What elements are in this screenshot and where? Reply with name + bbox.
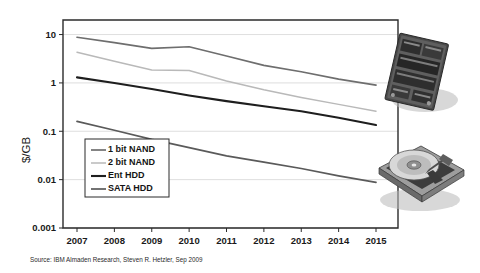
hdd-photo bbox=[379, 146, 464, 211]
y-axis-ticks: 1010.10.010.001 bbox=[32, 29, 63, 233]
x-tick-label: 2014 bbox=[328, 235, 350, 246]
legend-label: Ent HDD bbox=[108, 170, 145, 180]
x-tick-label: 2015 bbox=[365, 235, 387, 246]
x-tick-label: 2010 bbox=[179, 235, 200, 246]
source-caption: Source: IBM Almaden Research, Steven R. … bbox=[30, 256, 203, 264]
x-tick-label: 2011 bbox=[216, 235, 237, 246]
legend-label: SATA HDD bbox=[108, 183, 153, 193]
y-tick-label: 1 bbox=[51, 77, 57, 88]
x-tick-label: 2007 bbox=[66, 235, 87, 246]
gridlines bbox=[63, 35, 398, 228]
series-line-1-bit-nand bbox=[77, 37, 376, 85]
y-tick-label: 0.01 bbox=[38, 174, 57, 185]
storage-cost-chart: 1010.10.010.001 200720082009201020112012… bbox=[0, 0, 480, 273]
x-tick-label: 2013 bbox=[291, 235, 312, 246]
legend-label: 1 bit NAND bbox=[108, 144, 156, 154]
x-axis-ticks: 200720082009201020112012201320142015 bbox=[66, 228, 387, 246]
x-tick-label: 2012 bbox=[253, 235, 274, 246]
series-line-2-bit-nand bbox=[77, 52, 376, 111]
y-tick-label: 0.001 bbox=[32, 222, 56, 233]
price-per-gb-figure: 1010.10.010.001 200720082009201020112012… bbox=[0, 0, 480, 273]
x-tick-label: 2009 bbox=[141, 235, 162, 246]
legend-label: 2 bit NAND bbox=[108, 157, 156, 167]
ssd-photo bbox=[385, 33, 458, 112]
y-tick-label: 0.1 bbox=[43, 126, 57, 137]
series-line-ent-hdd bbox=[77, 77, 376, 125]
y-axis-title: $/GB bbox=[20, 137, 32, 164]
y-tick-label: 10 bbox=[45, 29, 56, 40]
legend: 1 bit NAND2 bit NANDEnt HDDSATA HDD bbox=[85, 139, 169, 197]
x-tick-label: 2008 bbox=[104, 235, 125, 246]
